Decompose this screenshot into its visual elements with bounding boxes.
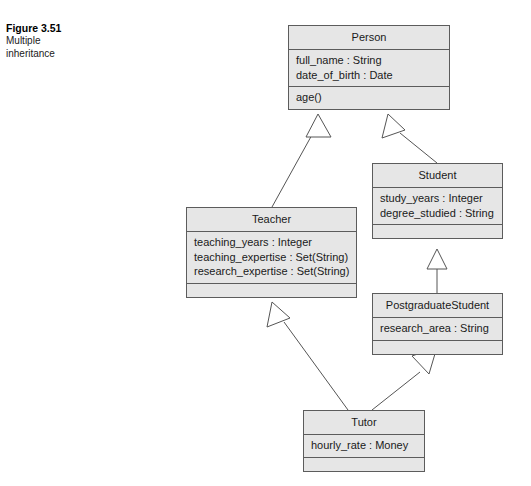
class-name-person: Person	[289, 26, 449, 50]
attribute: hourly_rate : Money	[311, 438, 417, 453]
attribute: research_expertise : Set(String)	[194, 264, 349, 279]
attribute: study_years : Integer	[380, 191, 495, 206]
attribute: full_name : String	[296, 53, 442, 68]
class-name-student: Student	[373, 164, 502, 188]
class-name-postgraduatestudent: PostgraduateStudent	[373, 294, 502, 318]
attribute: research_area : String	[380, 321, 495, 336]
generalization-teacher-to-person	[272, 114, 331, 207]
attribute: date_of_birth : Date	[296, 68, 442, 83]
class-operations-student	[373, 225, 502, 238]
class-box-postgraduatestudent[interactable]: PostgraduateStudent research_area : Stri…	[372, 293, 503, 355]
class-operations-person: age()	[289, 87, 449, 109]
operation: age()	[296, 90, 442, 105]
generalization-tutor-to-teacher	[267, 302, 348, 410]
attribute: teaching_years : Integer	[194, 235, 349, 250]
class-attributes-postgraduatestudent: research_area : String	[373, 318, 502, 341]
uml-class-diagram: Person --> Person --> Student --> Teache…	[0, 0, 531, 486]
class-operations-tutor	[304, 458, 424, 471]
class-box-student[interactable]: Student study_years : Integer degree_stu…	[372, 163, 503, 239]
generalization-student-to-person	[382, 114, 437, 163]
class-name-tutor: Tutor	[304, 411, 424, 435]
class-box-teacher[interactable]: Teacher teaching_years : Integer teachin…	[186, 207, 357, 298]
generalization-tutor-to-postgraduatestudent	[372, 347, 437, 410]
class-attributes-student: study_years : Integer degree_studied : S…	[373, 188, 502, 225]
attribute: degree_studied : String	[380, 206, 495, 221]
generalization-postgraduatestudent-to-student	[427, 249, 447, 293]
class-attributes-person: full_name : String date_of_birth : Date	[289, 50, 449, 87]
class-box-person[interactable]: Person full_name : String date_of_birth …	[288, 25, 450, 110]
attribute: teaching_expertise : Set(String)	[194, 250, 349, 265]
class-operations-teacher	[187, 284, 356, 297]
class-attributes-tutor: hourly_rate : Money	[304, 435, 424, 458]
class-operations-postgraduatestudent	[373, 341, 502, 354]
class-attributes-teacher: teaching_years : Integer teaching_expert…	[187, 232, 356, 284]
class-name-teacher: Teacher	[187, 208, 356, 232]
class-box-tutor[interactable]: Tutor hourly_rate : Money	[303, 410, 425, 472]
